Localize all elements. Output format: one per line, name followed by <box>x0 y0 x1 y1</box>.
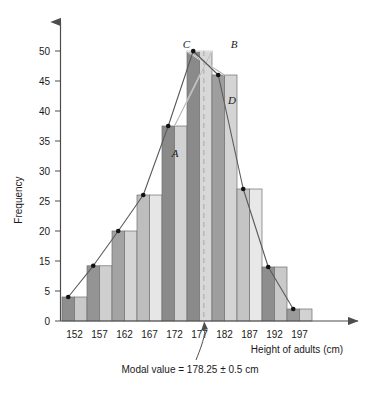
x-tick-167: 167 <box>141 329 158 340</box>
y-tick-30: 30 <box>39 166 51 177</box>
y-tick-20: 20 <box>39 226 51 237</box>
label-C: C <box>183 38 191 50</box>
x-tick-197: 197 <box>291 329 308 340</box>
y-tick-40: 40 <box>39 106 51 117</box>
x-tick-157: 157 <box>91 329 108 340</box>
bar-177 <box>187 51 212 321</box>
x-tick-192: 192 <box>266 329 283 340</box>
x-axis-title: Height of adults (cm) <box>251 344 343 355</box>
histogram-figure: 50 45 40 35 30 25 20 15 10 5 Frequency 5… <box>0 0 377 393</box>
label-A: A <box>171 147 179 159</box>
label-B: B <box>231 38 238 50</box>
y-axis-title: Frequency <box>13 176 24 223</box>
x-tick-187: 187 <box>241 329 258 340</box>
x-tick-162: 162 <box>116 329 133 340</box>
y-axis-low-ticks: 5 0 <box>32 286 52 329</box>
y-tick-15: 15 <box>39 256 51 267</box>
y-tick-5-label: 5 <box>44 286 50 297</box>
x-tick-182: 182 <box>216 329 233 340</box>
x-tick-152: 152 <box>66 329 83 340</box>
y-tick-35: 35 <box>39 136 51 147</box>
x-tick-177: 177 <box>191 329 208 340</box>
modal-value-caption: Modal value = 178.25 ± 0.5 cm <box>122 364 259 375</box>
bar-157 <box>87 266 112 321</box>
y-tick-0-label: 0 <box>44 316 50 327</box>
bar-162 <box>112 231 137 321</box>
bar-182 <box>212 75 237 321</box>
frequency-histogram-chart: 50 45 40 35 30 25 20 15 10 5 Frequency 5… <box>0 0 377 393</box>
bar-192 <box>262 267 287 321</box>
bar-197 <box>287 309 312 321</box>
x-tick-172: 172 <box>166 329 183 340</box>
y-tick-45: 45 <box>39 76 51 87</box>
label-D: D <box>227 94 236 106</box>
bar-167 <box>137 195 162 321</box>
bar-152 <box>62 297 87 321</box>
y-tick-50: 50 <box>39 46 51 57</box>
y-tick-25: 25 <box>39 196 51 207</box>
